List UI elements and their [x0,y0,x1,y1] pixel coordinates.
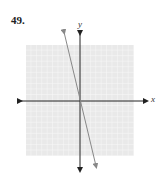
y-axis-label: y [78,19,82,29]
x-axis-label: x [151,94,155,104]
coordinate-plane [0,0,164,183]
